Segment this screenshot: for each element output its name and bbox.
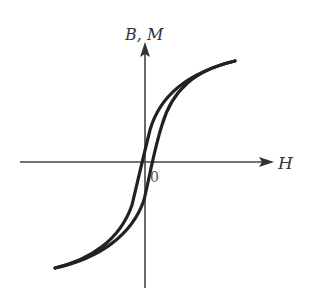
origin-label: 0	[150, 169, 159, 185]
h-axis-label: H	[277, 153, 294, 173]
hysteresis-diagram: B, M H 0	[0, 0, 311, 304]
bm-axis-label: B, M	[124, 25, 164, 44]
